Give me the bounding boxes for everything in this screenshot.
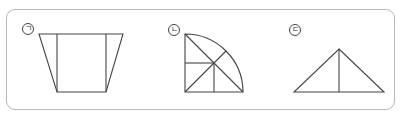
triangle-figure — [294, 49, 384, 92]
figures-canvas — [0, 0, 401, 117]
quarter-circle-figure — [185, 34, 243, 92]
trapezoid-figure — [39, 34, 123, 92]
